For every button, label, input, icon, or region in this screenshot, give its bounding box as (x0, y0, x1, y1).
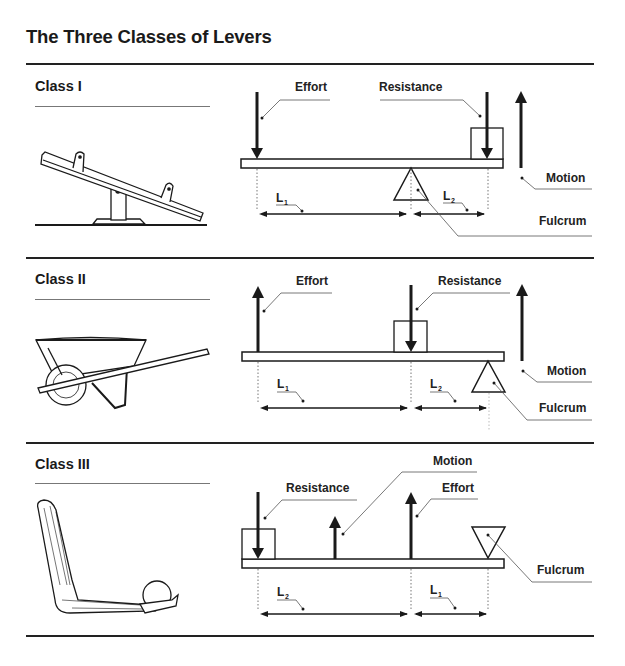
svg-text:2: 2 (285, 593, 289, 600)
resistance-label: Resistance (286, 481, 350, 495)
lever-diagrams: Effort Resistance Motion Fulcrum L 1 L 2 (0, 0, 625, 666)
l2-label: L (430, 377, 437, 391)
motion-arrow-icon (329, 516, 341, 528)
l2-label: L (443, 189, 450, 203)
fulcrum-triangle-icon (472, 527, 505, 558)
resistance-label: Resistance (438, 274, 502, 288)
l1-label: L (277, 377, 284, 391)
resistance-label: Resistance (379, 80, 443, 94)
lever-bar (242, 352, 504, 361)
fulcrum-label: Fulcrum (539, 401, 586, 415)
effort-label: Effort (296, 274, 328, 288)
fulcrum-label: Fulcrum (539, 214, 586, 228)
lever-bar (241, 159, 503, 168)
motion-label: Motion (547, 364, 586, 378)
l2-label: L (277, 585, 284, 599)
fulcrum-label: Fulcrum (537, 563, 584, 577)
l1-label: L (276, 191, 283, 205)
effort-arrow-icon (251, 148, 263, 159)
effort-arrow-icon (252, 286, 264, 298)
class-3-diagram: Motion Resistance Effort Fulcrum L 2 L 1 (242, 454, 592, 617)
wheelbarrow-illustration (36, 338, 209, 409)
motion-arrow-icon (515, 91, 527, 103)
svg-text:2: 2 (438, 385, 442, 392)
effort-label: Effort (295, 80, 327, 94)
motion-arrow-icon (516, 284, 528, 296)
motion-label: Motion (546, 171, 585, 185)
fulcrum-triangle-icon (472, 361, 505, 392)
svg-text:1: 1 (284, 199, 288, 206)
seesaw-illustration (35, 152, 207, 225)
svg-text:1: 1 (438, 591, 442, 598)
effort-label: Effort (442, 481, 474, 495)
arm-illustration (38, 500, 178, 613)
class-2-diagram: Effort Resistance Motion Fulcrum L 1 L 2 (242, 274, 592, 430)
class-1-diagram: Effort Resistance Motion Fulcrum L 1 L 2 (241, 80, 592, 236)
l1-label: L (430, 583, 437, 597)
svg-text:1: 1 (285, 385, 289, 392)
effort-arrow-icon (405, 492, 417, 504)
motion-label: Motion (433, 454, 472, 468)
lever-bar (242, 559, 504, 568)
svg-text:2: 2 (451, 197, 455, 204)
